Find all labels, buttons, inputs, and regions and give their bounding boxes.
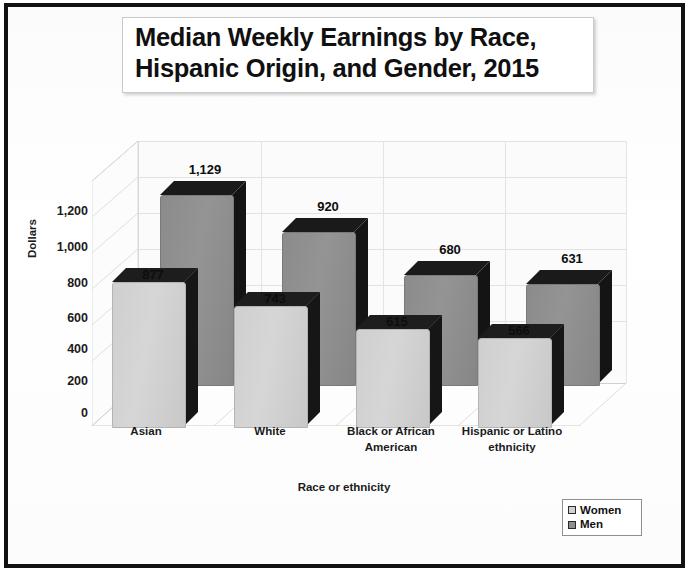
plot-area: 1,129 920 680 631 877 743 615 566	[92, 141, 626, 426]
legend-label-women: Women	[580, 503, 621, 517]
chart-screenshot: Median Weekly Earnings by Race, Hispanic…	[0, 0, 689, 571]
x-category-hispanic-line-1: Hispanic or Latino	[462, 424, 562, 440]
x-category-black: Black or African American	[347, 424, 435, 455]
data-label-women-asian: 877	[142, 267, 164, 282]
legend-swatch-men-icon	[568, 521, 576, 529]
bar-women-asian[interactable]	[112, 268, 198, 426]
data-label-men-asian: 1,129	[189, 162, 222, 177]
data-label-women-black: 615	[386, 314, 408, 329]
bar-women-hispanic[interactable]	[478, 324, 564, 426]
x-category-hispanic: Hispanic or Latino ethnicity	[462, 424, 562, 455]
legend-label-men: Men	[580, 517, 603, 531]
gridline-v-4	[626, 141, 627, 383]
legend-item-women[interactable]: Women	[568, 503, 621, 517]
x-category-asian-line-1: Asian	[130, 424, 161, 440]
x-category-asian: Asian	[130, 424, 161, 440]
y-tick-200: 200	[26, 374, 88, 388]
data-label-men-black: 680	[439, 242, 461, 257]
x-category-hispanic-line-2: ethnicity	[462, 440, 562, 456]
bar-women-black[interactable]	[356, 315, 442, 426]
bar-women-white[interactable]	[234, 292, 320, 426]
bar-women-white-face	[234, 306, 308, 428]
chart-title: Median Weekly Earnings by Race, Hispanic…	[122, 17, 594, 93]
y-tick-1000: 1,000	[26, 240, 88, 254]
chart-title-line-1: Median Weekly Earnings by Race,	[135, 22, 583, 53]
bar-women-asian-face	[112, 282, 186, 428]
bar-women-black-face	[356, 329, 430, 428]
legend-swatch-women-icon	[568, 506, 576, 514]
x-axis-title: Race or ethnicity	[298, 481, 391, 493]
legend[interactable]: Women Men	[562, 499, 642, 536]
x-category-black-line-2: American	[347, 440, 435, 456]
x-category-white: White	[254, 424, 285, 440]
data-label-men-white: 920	[317, 199, 339, 214]
data-label-women-white: 743	[264, 291, 286, 306]
legend-item-men[interactable]: Men	[568, 517, 621, 531]
y-tick-800: 800	[26, 276, 88, 290]
data-label-women-hispanic: 566	[508, 323, 530, 338]
x-category-white-line-1: White	[254, 424, 285, 440]
y-tick-400: 400	[26, 342, 88, 356]
y-tick-600: 600	[26, 311, 88, 325]
chart-title-line-2: Hispanic Origin, and Gender, 2015	[135, 53, 583, 84]
data-label-men-hispanic: 631	[561, 251, 583, 266]
y-tick-0: 0	[26, 406, 88, 420]
x-category-black-line-1: Black or African	[347, 424, 435, 440]
y-tick-1200: 1,200	[26, 204, 88, 218]
bar-women-hispanic-face	[478, 338, 552, 428]
